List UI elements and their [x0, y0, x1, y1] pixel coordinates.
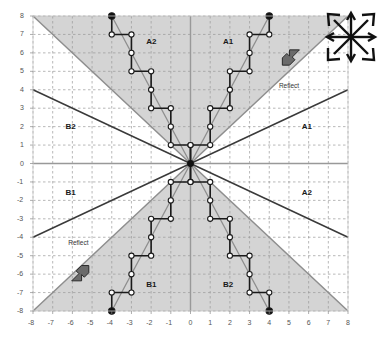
x-tick-label: -7 [48, 319, 54, 326]
step-marker [149, 106, 154, 111]
step-marker [227, 87, 232, 92]
x-tick-label: 0 [189, 319, 193, 326]
step-marker [208, 124, 213, 129]
step-marker [129, 69, 134, 74]
step-marker [227, 235, 232, 240]
y-tick-label: -5 [17, 252, 23, 259]
y-tick-label: 8 [20, 12, 24, 19]
step-marker [129, 32, 134, 37]
step-marker [227, 106, 232, 111]
x-tick-label: -4 [107, 319, 113, 326]
x-tick-label: 4 [267, 319, 271, 326]
y-tick-label: 0 [20, 160, 24, 167]
step-marker [188, 142, 193, 147]
y-tick-label: 5 [20, 67, 24, 74]
region-label-b2: B2 [223, 281, 233, 289]
step-marker [168, 142, 173, 147]
origin-marker [187, 160, 194, 167]
step-marker [247, 253, 252, 258]
step-marker [109, 290, 114, 295]
step-marker [208, 142, 213, 147]
figure-root: ReflectReflectA2A1B2A1B1A2B1B2-8-7-6-5-4… [0, 0, 389, 343]
step-marker [247, 290, 252, 295]
step-marker [247, 50, 252, 55]
step-marker [149, 216, 154, 221]
step-marker [168, 124, 173, 129]
step-marker [149, 69, 154, 74]
y-tick-label: -8 [17, 307, 23, 314]
step-marker [227, 69, 232, 74]
y-tick-label: 3 [20, 104, 24, 111]
step-marker [267, 32, 272, 37]
step-marker [208, 179, 213, 184]
x-tick-label: 5 [287, 319, 291, 326]
step-marker [168, 198, 173, 203]
step-marker [149, 87, 154, 92]
region-label-b1: B1 [146, 281, 156, 289]
region-label-a1: A1 [223, 38, 233, 46]
region-label-b2: B2 [65, 123, 75, 131]
reflect-label: Reflect [279, 83, 299, 90]
step-marker [168, 179, 173, 184]
step-marker [129, 50, 134, 55]
step-marker [168, 216, 173, 221]
step-marker [129, 253, 134, 258]
step-marker [188, 179, 193, 184]
step-marker [227, 216, 232, 221]
x-tick-label: -8 [28, 319, 34, 326]
region-label-b1: B1 [65, 189, 75, 197]
y-tick-label: -3 [17, 215, 23, 222]
step-marker [247, 69, 252, 74]
y-tick-label: -7 [17, 289, 23, 296]
region-label-a2: A2 [302, 189, 312, 197]
y-tick-label: 1 [20, 141, 24, 148]
y-tick-label: 2 [20, 123, 24, 130]
region-label-a2: A2 [146, 38, 156, 46]
step-marker [227, 253, 232, 258]
step-marker [149, 253, 154, 258]
step-marker [129, 272, 134, 277]
y-tick-label: 7 [20, 30, 24, 37]
step-marker [267, 290, 272, 295]
x-tick-label: -1 [166, 319, 172, 326]
region-label-a1: A1 [302, 123, 312, 131]
y-tick-label: -2 [17, 196, 23, 203]
step-marker [208, 106, 213, 111]
x-tick-label: -2 [146, 319, 152, 326]
x-tick-label: -5 [87, 319, 93, 326]
step-marker [247, 272, 252, 277]
x-tick-label: 7 [326, 319, 330, 326]
step-marker [208, 216, 213, 221]
x-tick-label: 8 [346, 319, 350, 326]
step-marker [168, 106, 173, 111]
step-marker [247, 32, 252, 37]
step-marker [109, 32, 114, 37]
step-marker [149, 235, 154, 240]
y-tick-label: 6 [20, 49, 24, 56]
x-tick-label: 3 [248, 319, 252, 326]
x-tick-label: 2 [228, 319, 232, 326]
x-tick-label: 1 [208, 319, 212, 326]
y-tick-label: -1 [17, 178, 23, 185]
y-tick-label: 4 [20, 86, 24, 93]
y-tick-label: -4 [17, 233, 23, 240]
x-tick-label: 6 [307, 319, 311, 326]
step-marker [129, 290, 134, 295]
y-tick-label: -6 [17, 270, 23, 277]
x-tick-label: -6 [67, 319, 73, 326]
reflect-label: Reflect [68, 240, 88, 247]
eight-direction-arrows-icon [322, 8, 380, 66]
step-marker [208, 198, 213, 203]
x-tick-label: -3 [126, 319, 132, 326]
